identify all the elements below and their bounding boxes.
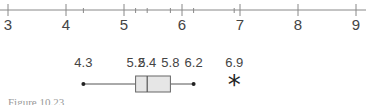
value-label: 5.4 [138,55,156,70]
value-label: 5.8 [161,55,179,70]
tick-label: 7 [236,16,244,33]
max-dot [192,82,196,86]
tick-label: 3 [4,16,12,33]
iqr-box [136,76,171,92]
box-plot: * [81,70,240,100]
tick-label: 4 [62,16,70,33]
value-label: 6.2 [185,55,203,70]
tick-label: 8 [294,16,302,33]
outlier-star-icon: * [228,70,241,100]
value-label: 4.3 [74,55,92,70]
value-label: 6.9 [225,55,243,70]
number-line-axis: 3456789 [0,4,366,33]
value-labels: 4.35.25.45.86.26.9 [74,55,243,70]
tick-label: 5 [120,16,128,33]
tick-label: 9 [352,16,360,33]
boxplot-chart: 3456789 4.35.25.45.86.26.9 * [0,0,366,105]
figure-caption: Figure 10.23 [8,96,64,105]
tick-label: 6 [178,16,186,33]
min-dot [81,82,85,86]
